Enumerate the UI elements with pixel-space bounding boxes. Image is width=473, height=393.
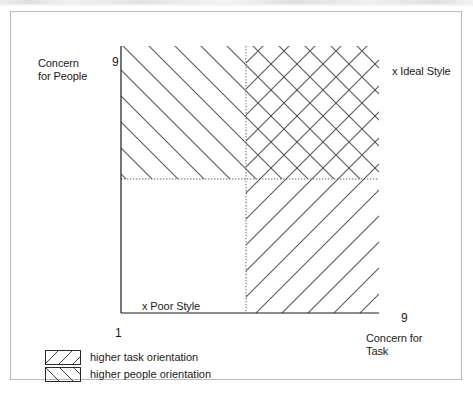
quadrant-top-right — [246, 46, 379, 179]
figure-frame: Concern for People 9 1 9 Concern for Tas… — [10, 11, 462, 380]
y-axis-label: Concern for People — [38, 57, 108, 83]
quadrant-top-left — [121, 46, 246, 179]
quadrant-bottom-right — [246, 179, 379, 313]
legend-swatch-falling-hatch-icon — [45, 367, 81, 382]
legend-swatch-rising-hatch-icon — [45, 350, 81, 365]
legend-label-higher-task-orientation: higher task orientation — [90, 351, 198, 364]
legend-item-higher-people-orientation: higher people orientation — [45, 366, 211, 383]
legend-item-higher-task-orientation: higher task orientation — [45, 349, 211, 366]
legend: higher task orientation higher people or… — [45, 349, 211, 383]
ideal-style-marker-label: x Ideal Style — [392, 65, 451, 78]
legend-label-higher-people-orientation: higher people orientation — [90, 368, 211, 381]
origin-tick-label: 1 — [115, 327, 122, 340]
y-axis-max-tick-label: 9 — [112, 56, 119, 69]
scan-artifact-strip-secondary — [0, 4, 473, 6]
x-axis-label: Concern for Task — [366, 332, 456, 358]
poor-style-marker-label: x Poor Style — [142, 300, 200, 313]
x-axis-max-tick-label: 9 — [401, 312, 408, 325]
quadrant-bottom-left — [121, 179, 246, 313]
